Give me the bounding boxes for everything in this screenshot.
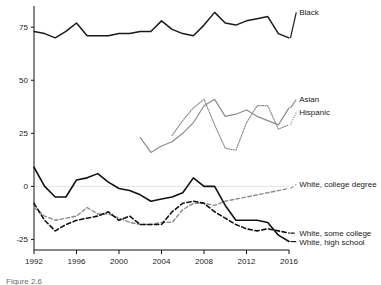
x-tick-label: 2008 — [195, 257, 213, 266]
x-tick-label: 2016 — [280, 257, 298, 266]
series-label: White, college degree — [299, 180, 377, 189]
series-leader-line — [291, 12, 297, 37]
series-line — [172, 99, 289, 150]
x-tick-label: 2004 — [153, 257, 171, 266]
series-labels-group: BlackAsianHispanicWhite, college degreeW… — [291, 8, 378, 246]
series-leader-line — [291, 112, 297, 125]
figure-caption: Figure 2.6 — [6, 276, 42, 285]
series-leader-line — [291, 184, 297, 188]
x-tick-label: 2000 — [110, 257, 128, 266]
y-tick-label: 50 — [19, 76, 28, 85]
series-line — [34, 188, 289, 224]
data-series-group — [34, 12, 289, 241]
y-tick-label: 0 — [24, 182, 29, 191]
chart-axes — [34, 6, 289, 250]
y-axis-ticks: -250255075 — [16, 23, 34, 244]
series-line — [34, 12, 289, 37]
y-tick-label: 25 — [19, 129, 28, 138]
x-tick-label: 1996 — [68, 257, 86, 266]
series-label: Black — [299, 8, 320, 17]
series-label: Asian — [299, 95, 319, 104]
x-tick-label: 2012 — [238, 257, 256, 266]
y-tick-label: -25 — [16, 235, 28, 244]
x-tick-label: 1992 — [25, 257, 43, 266]
series-label: Hispanic — [299, 108, 330, 117]
series-leader-line — [291, 99, 297, 107]
series-line — [140, 99, 289, 152]
series-label: White, high school — [299, 238, 365, 247]
y-tick-label: 75 — [19, 23, 28, 32]
x-axis-ticks: 1992199620002004200820122016 — [25, 250, 298, 266]
